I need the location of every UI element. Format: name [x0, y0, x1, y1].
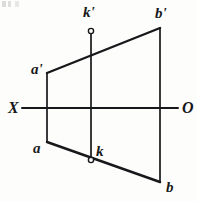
- point-label-k-prime: k': [83, 5, 95, 20]
- axis-label-o: O: [182, 100, 194, 116]
- point-marker-k: [88, 157, 93, 162]
- point-label-a-prime: a': [31, 62, 43, 77]
- point-label-a: a: [33, 141, 41, 156]
- point-marker-k-prime: [88, 28, 93, 33]
- axis-label-x: X: [8, 100, 19, 116]
- segment-a-prime-b-prime: [47, 28, 160, 73]
- point-label-b: b: [166, 180, 174, 195]
- point-label-b-prime: b': [155, 6, 167, 21]
- point-label-k: k: [96, 144, 104, 159]
- geometry-figure: X O a' b' a b k' k: [0, 0, 197, 202]
- figure-canvas: [0, 0, 197, 202]
